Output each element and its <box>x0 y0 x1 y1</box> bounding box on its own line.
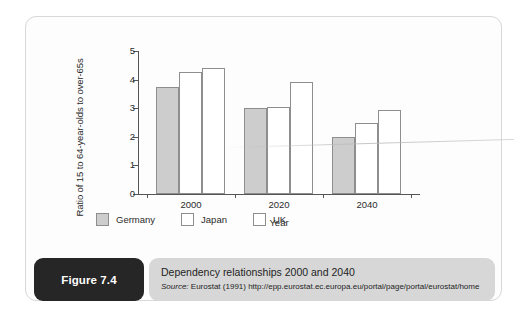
legend-item-uk[interactable]: UK <box>253 213 286 226</box>
bar-uk-2020[interactable] <box>290 82 313 194</box>
y-tick-label: 1 <box>130 159 135 170</box>
x-tick-mark <box>411 194 412 198</box>
chart-legend: Germany Japan UK <box>96 213 286 226</box>
figure-source-prefix: Source: <box>161 282 189 291</box>
bar-japan-2020[interactable] <box>267 107 290 194</box>
legend-label-japan: Japan <box>201 214 227 225</box>
bar-chart: Ratio of 15 to 64-year-olds to over-65s … <box>26 17 503 249</box>
bar-germany-2000[interactable] <box>156 87 179 194</box>
y-axis-line <box>138 51 139 194</box>
legend-item-germany[interactable]: Germany <box>96 213 155 226</box>
figure-number-label: Figure 7.4 <box>61 274 116 286</box>
figure-source-text: Eurostat (1991) http://epp.eurostat.ec.e… <box>189 282 480 291</box>
y-tick-label: 4 <box>130 74 135 85</box>
x-tick-mark <box>235 194 236 198</box>
figure-number-badge: Figure 7.4 <box>34 258 144 301</box>
x-tick-mark <box>323 194 324 198</box>
bar-japan-2000[interactable] <box>179 72 202 194</box>
y-tick-label: 5 <box>130 45 135 56</box>
bar-japan-2040[interactable] <box>355 123 378 195</box>
legend-item-japan[interactable]: Japan <box>181 213 227 226</box>
legend-swatch-germany <box>96 213 109 226</box>
figure-caption-panel: Dependency relationships 2000 and 2040 S… <box>149 258 495 301</box>
x-tick-label-2040: 2040 <box>337 199 397 210</box>
x-axis-line <box>138 194 420 195</box>
y-tick-label: 2 <box>130 131 135 142</box>
figure-caption-source: Source: Eurostat (1991) http://epp.euros… <box>161 281 485 292</box>
figure-card: Ratio of 15 to 64-year-olds to over-65s … <box>25 16 502 301</box>
legend-swatch-uk <box>253 213 266 226</box>
legend-swatch-japan <box>181 213 194 226</box>
bar-germany-2040[interactable] <box>332 137 355 194</box>
y-axis-title: Ratio of 15 to 64-year-olds to over-65s <box>74 58 85 218</box>
figure-caption-row: Figure 7.4 Dependency relationships 2000… <box>34 258 495 301</box>
bar-germany-2020[interactable] <box>244 108 267 194</box>
plot-area: 0 1 2 3 4 5 <box>138 51 420 194</box>
x-tick-label-2020: 2020 <box>249 199 309 210</box>
bar-uk-2040[interactable] <box>378 110 401 194</box>
x-tick-label-2000: 2000 <box>161 199 221 210</box>
y-tick-label: 3 <box>130 102 135 113</box>
figure-caption-title: Dependency relationships 2000 and 2040 <box>161 266 485 279</box>
x-tick-mark <box>147 194 148 198</box>
legend-label-uk: UK <box>273 214 286 225</box>
legend-label-germany: Germany <box>116 214 155 225</box>
y-tick-label: 0 <box>130 188 135 199</box>
bar-uk-2000[interactable] <box>202 68 225 194</box>
